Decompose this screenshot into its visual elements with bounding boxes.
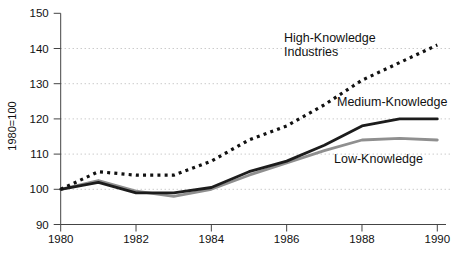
x-tick-label-1980: 1980 bbox=[48, 233, 74, 245]
x-tick-label-1984: 1984 bbox=[199, 233, 225, 245]
x-tick-label-1988: 1988 bbox=[349, 233, 375, 245]
series-label-high-knowledge: High-Knowledge Industries bbox=[284, 31, 376, 59]
y-tick-label-110: 110 bbox=[30, 148, 48, 160]
y-tick-label-150: 150 bbox=[30, 7, 49, 19]
series-label-high-knowledge-line1: High-Knowledge bbox=[284, 31, 376, 45]
series-line-high-knowledge-industries bbox=[61, 45, 438, 189]
x-tick-label-1986: 1986 bbox=[274, 233, 300, 245]
y-tick-label-100: 100 bbox=[30, 183, 49, 195]
chart-canvas: 9010011012013014015019801982198419861988… bbox=[0, 0, 456, 258]
line-chart-figure: 9010011012013014015019801982198419861988… bbox=[0, 0, 456, 258]
series-label-medium-knowledge: Medium-Knowledge bbox=[337, 95, 447, 109]
series-label-high-knowledge-line2: Industries bbox=[284, 45, 376, 59]
y-tick-label-130: 130 bbox=[30, 78, 49, 90]
x-tick-label-1990: 1990 bbox=[425, 233, 451, 245]
x-tick-label-1982: 1982 bbox=[123, 233, 149, 245]
y-tick-label-90: 90 bbox=[36, 219, 49, 231]
y-tick-label-120: 120 bbox=[30, 113, 49, 125]
y-tick-label-140: 140 bbox=[30, 43, 49, 55]
series-label-low-knowledge: Low-Knowledge bbox=[334, 152, 423, 166]
y-axis-title: 1980=100 bbox=[6, 71, 20, 181]
